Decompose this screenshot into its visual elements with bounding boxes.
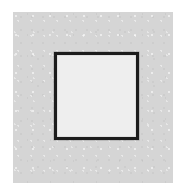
square-outline-shape xyxy=(54,52,139,140)
figure-canvas xyxy=(0,0,173,183)
gray-background-panel xyxy=(13,12,173,183)
